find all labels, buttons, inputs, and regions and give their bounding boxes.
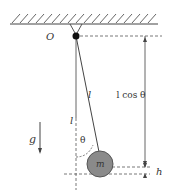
mass-label: m (96, 159, 105, 169)
rise-label: h (156, 166, 162, 177)
gravity-label: g (29, 133, 36, 146)
ceiling (10, 14, 158, 24)
lcos-arrow-top-icon (143, 37, 147, 42)
diagram-canvas: O l l l cos θ θ m g h (0, 0, 172, 196)
height-expr-label: l cos θ (116, 90, 145, 100)
pivot-point (73, 33, 80, 40)
pendulum-diagram: O l l l cos θ θ m g h (0, 0, 172, 196)
string-length-label: l (88, 89, 91, 100)
pivot-label: O (46, 31, 54, 42)
gravity-arrow-icon (38, 148, 42, 154)
angle-label: θ (80, 135, 85, 145)
vertical-length-label: l (70, 115, 73, 126)
pivot-support (70, 24, 82, 33)
